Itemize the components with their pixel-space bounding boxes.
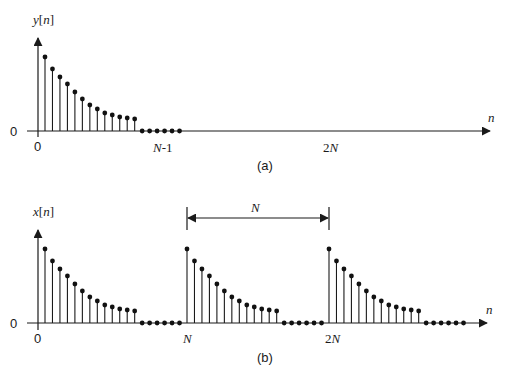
stem-dot: [334, 259, 339, 264]
stem-dot: [110, 305, 115, 310]
stem-dot: [304, 321, 309, 326]
stem-dot: [409, 308, 414, 313]
x-axis-label-a: n: [488, 110, 495, 125]
stem-dot: [192, 259, 197, 264]
stem-dot: [72, 282, 77, 287]
stem-dot: [274, 309, 279, 314]
stem-dot: [102, 111, 107, 116]
tick-0-a: 0: [34, 139, 41, 154]
stem-dot: [125, 116, 130, 121]
stem-dot: [446, 321, 451, 326]
stem-dot: [379, 299, 384, 304]
period-label: N: [250, 200, 261, 215]
stem-dot: [72, 90, 77, 95]
caption-b: (b): [257, 350, 273, 365]
stem-dot: [371, 295, 376, 300]
stem-dot: [95, 299, 100, 304]
stem-dot: [80, 97, 85, 102]
stem-dot: [454, 321, 459, 326]
stem-dot: [289, 321, 294, 326]
tick-2N-a: 2N: [323, 140, 340, 155]
period-annotation: N: [187, 200, 329, 230]
stems-b: [43, 247, 466, 326]
stem-dot: [58, 267, 63, 272]
stems-a: [43, 55, 182, 134]
x-axis-label-b: n: [486, 302, 493, 317]
stem-dot: [267, 308, 272, 313]
plot-b: N x[n] n 0 0 N 2N (b): [10, 200, 493, 365]
stem-dot: [125, 308, 130, 313]
stem-dot: [364, 289, 369, 294]
zero-ylabel-b: 0: [10, 316, 17, 331]
ylabel-b: x[n]: [32, 204, 54, 219]
stem-dot: [162, 129, 167, 134]
stem-dot: [244, 303, 249, 308]
stem-dot: [297, 321, 302, 326]
stem-dot: [356, 282, 361, 287]
stem-dot: [252, 305, 257, 310]
stem-dot: [65, 274, 70, 279]
stem-dot: [327, 247, 332, 252]
stem-dot: [110, 113, 115, 118]
stem-dot: [95, 107, 100, 112]
tick-N-1-a: N-1: [152, 140, 173, 155]
stem-dot: [147, 129, 152, 134]
stem-dot: [424, 321, 429, 326]
stem-dot: [200, 267, 205, 272]
stem-dot: [214, 282, 219, 287]
stem-dot: [439, 321, 444, 326]
caption-a: (a): [257, 158, 273, 173]
stem-dot: [162, 321, 167, 326]
stem-dot: [222, 289, 227, 294]
stem-dot: [282, 321, 287, 326]
stem-dot: [117, 115, 122, 120]
stem-dot: [207, 274, 212, 279]
stem-dot: [102, 303, 107, 308]
stem-dot: [132, 117, 137, 122]
stem-dot: [87, 295, 92, 300]
stem-dot: [401, 307, 406, 312]
plot-a: y[n] n 0 0 N-1 2N (a): [10, 12, 495, 173]
stem-dot: [155, 129, 160, 134]
stem-dot: [259, 307, 264, 312]
stem-dot: [58, 75, 63, 80]
stem-dot: [185, 247, 190, 252]
stem-dot: [312, 321, 317, 326]
stem-dot: [237, 299, 242, 304]
figure: y[n] n 0 0 N-1 2N (a) N x[n] n 0 0 N 2N …: [0, 0, 506, 380]
stem-dot: [50, 259, 55, 264]
zero-ylabel-a: 0: [10, 124, 17, 139]
tick-2N-b: 2N: [325, 331, 342, 346]
stem-dot: [147, 321, 152, 326]
stem-dot: [170, 129, 175, 134]
stem-dot: [349, 274, 354, 279]
ylabel-a: y[n]: [31, 12, 54, 27]
stem-dot: [80, 289, 85, 294]
stem-dot: [177, 129, 182, 134]
stem-dot: [65, 82, 70, 87]
stem-dot: [177, 321, 182, 326]
stem-dot: [117, 307, 122, 312]
tick-0-b: 0: [34, 331, 41, 346]
stem-dot: [416, 309, 421, 314]
stem-dot: [319, 321, 324, 326]
stem-dot: [229, 295, 234, 300]
stem-dot: [461, 321, 466, 326]
stem-dot: [43, 247, 48, 252]
stem-dot: [431, 321, 436, 326]
stem-dot: [170, 321, 175, 326]
stem-dot: [394, 305, 399, 310]
stem-dot: [155, 321, 160, 326]
stem-dot: [140, 129, 145, 134]
tick-N-b: N: [182, 331, 193, 346]
stem-dot: [342, 267, 347, 272]
stem-dot: [140, 321, 145, 326]
stem-dot: [386, 303, 391, 308]
stem-dot: [43, 55, 48, 60]
stem-dot: [132, 309, 137, 314]
stem-dot: [87, 103, 92, 108]
stem-dot: [50, 67, 55, 72]
